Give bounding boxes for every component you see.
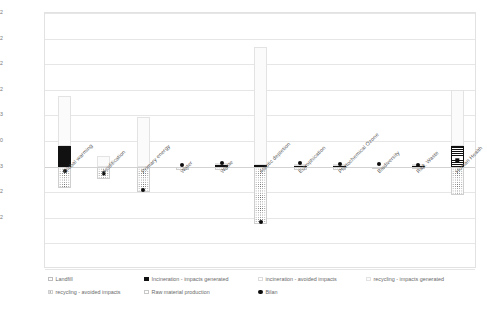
legend-swatch-inc-gen-icon xyxy=(144,277,149,282)
y-tick-label: 3E-02 xyxy=(0,9,3,15)
plot-area xyxy=(44,12,476,268)
y-tick-label: 2E-02 xyxy=(0,60,3,66)
category-column xyxy=(241,13,280,267)
legend-swatch-rec-av-icon xyxy=(48,290,53,295)
bilan-marker xyxy=(456,159,459,162)
bar-segment xyxy=(254,167,267,224)
legend-swatch-raw-icon xyxy=(144,290,149,295)
bars-layer xyxy=(45,13,475,267)
legend-swatch-rec-gen-icon xyxy=(366,277,371,282)
category-column xyxy=(124,13,163,267)
chart-container: 3E-022E-022E-021E-025E-030E+00-5E-03-1E-… xyxy=(0,0,487,314)
legend-swatch-bilan-icon xyxy=(258,290,263,295)
category-column xyxy=(438,13,477,267)
category-column xyxy=(84,13,123,267)
legend-item[interactable]: Landfill xyxy=(48,276,73,282)
legend-item[interactable]: Bilan xyxy=(258,289,278,295)
legend-swatch-landfill-icon xyxy=(48,277,53,282)
category-column xyxy=(202,13,241,267)
bar-segment xyxy=(451,90,464,146)
bilan-marker xyxy=(259,220,263,224)
y-tick-label: -1E-02 xyxy=(0,188,3,194)
legend-swatch-inc-av-icon xyxy=(258,277,263,282)
legend-label: Landfill xyxy=(56,276,73,282)
bilan-marker xyxy=(220,161,224,165)
y-tick-label: 2E-02 xyxy=(0,35,3,41)
chart-legend: LandfillIncineration - impacts generated… xyxy=(44,276,476,302)
gridline xyxy=(45,269,475,270)
legend-item[interactable]: recycling - impacts generated xyxy=(366,276,444,282)
legend-label: Raw material production xyxy=(152,289,210,295)
legend-label: recycling - avoided impacts xyxy=(56,289,121,295)
bar-segment xyxy=(137,117,150,167)
legend-row-2: recycling - avoided impactsRaw material … xyxy=(44,289,476,302)
category-column xyxy=(398,13,437,267)
legend-label: Bilan xyxy=(266,289,278,295)
y-tick-label: -2E-02 xyxy=(0,214,3,220)
y-tick-label: 5E-03 xyxy=(0,111,3,117)
y-tick-label: 1E-02 xyxy=(0,86,3,92)
legend-item[interactable]: recycling - avoided impacts xyxy=(48,289,121,295)
bilan-marker xyxy=(141,188,145,192)
legend-label: recycling - impacts generated xyxy=(374,276,444,282)
bar-segment xyxy=(254,47,267,165)
category-column xyxy=(163,13,202,267)
legend-item[interactable]: Incineration - impacts generated xyxy=(144,276,229,282)
legend-item[interactable]: Raw material production xyxy=(144,289,210,295)
legend-label: Incineration - impacts generated xyxy=(152,276,229,282)
bar-segment xyxy=(58,96,71,146)
category-column xyxy=(320,13,359,267)
legend-label: incineration - avoided impacts xyxy=(266,276,337,282)
legend-item[interactable]: incineration - avoided impacts xyxy=(258,276,337,282)
y-tick-label: -5E-03 xyxy=(0,163,3,169)
legend-row-1: LandfillIncineration - impacts generated… xyxy=(44,276,476,289)
category-column xyxy=(45,13,84,267)
y-tick-label: 0E+00 xyxy=(0,137,3,143)
